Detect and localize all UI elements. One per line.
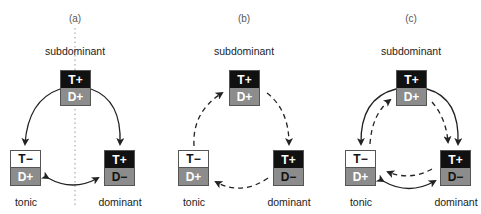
panel-c-label: (c) (391, 13, 431, 24)
panel-a-subdominant-box: T+ D+ (60, 70, 91, 106)
panel-c-dominant-box: T+ D− (440, 150, 471, 186)
upper-cell: T+ (105, 151, 134, 168)
panel-c-subdominant-box: T+ D+ (396, 70, 427, 106)
upper-cell: T− (346, 151, 375, 168)
arrows-layer (0, 0, 481, 214)
panel-a-label: (a) (55, 13, 95, 24)
panel-a-dominant-box: T+ D− (104, 150, 135, 186)
panel-b-dominant-box: T+ D− (273, 150, 304, 186)
lower-cell: D+ (397, 88, 426, 105)
panel-b-subdominant-box: T+ D+ (229, 70, 260, 106)
lower-cell: D+ (179, 168, 208, 185)
panel-b-tonic-label: tonic (174, 196, 214, 208)
panel-a-dominant-label: dominant (94, 196, 146, 208)
upper-cell: T+ (274, 151, 303, 168)
panel-c-dominant-label: dominant (430, 196, 481, 208)
upper-cell: T+ (397, 71, 426, 88)
lower-cell: D+ (346, 168, 375, 185)
panel-a-subdominant-label: subdominant (45, 45, 105, 57)
panel-a-tonic-box: T− D+ (10, 150, 41, 186)
upper-cell: T− (11, 151, 40, 168)
panel-b-label: (b) (224, 13, 264, 24)
lower-cell: D+ (11, 168, 40, 185)
upper-cell: T+ (441, 151, 470, 168)
panel-c-subdominant-label: subdominant (381, 45, 441, 57)
panel-a-tonic-label: tonic (6, 196, 46, 208)
upper-cell: T− (179, 151, 208, 168)
upper-cell: T+ (230, 71, 259, 88)
panel-b-tonic-box: T− D+ (178, 150, 209, 186)
upper-cell: T+ (61, 71, 90, 88)
lower-cell: D− (105, 168, 134, 185)
lower-cell: D− (441, 168, 470, 185)
lower-cell: D− (274, 168, 303, 185)
lower-cell: D+ (61, 88, 90, 105)
panel-b-subdominant-label: subdominant (214, 45, 274, 57)
panel-c-tonic-box: T− D+ (345, 150, 376, 186)
panel-b-dominant-label: dominant (263, 196, 315, 208)
lower-cell: D+ (230, 88, 259, 105)
panel-c-tonic-label: tonic (341, 196, 381, 208)
